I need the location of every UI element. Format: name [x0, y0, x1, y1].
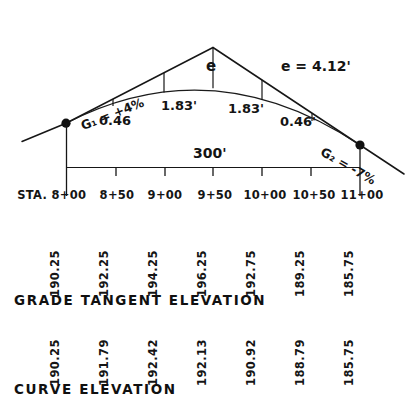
offset-label-3: 1.83' [228, 101, 264, 116]
curve-length-label: 300' [193, 145, 227, 161]
station-label-row: STA. 8+00 8+50 9+00 9+50 10+00 10+50 11+… [0, 188, 410, 210]
grade-tangent-elev-8+00: 190.25 [48, 250, 62, 297]
curve-elev-11+00: 185.75 [342, 339, 356, 386]
station-label-8+00: STA. 8+00 [17, 188, 86, 202]
curve-elev-9+50: 192.13 [195, 339, 209, 386]
grade-tangent-elevation-title: GRADE TANGENT ELEVATION [14, 292, 266, 308]
curve-elevation-title: CURVE ELEVATION [14, 381, 177, 397]
curve-elev-10+00: 190.92 [244, 339, 258, 386]
grade-tangent-elev-9+00: 194.25 [146, 250, 160, 297]
curve-elev-9+00: 192.42 [146, 339, 160, 386]
offset-label-4: 0.46' [280, 114, 316, 129]
station-label-9+50: 9+50 [198, 188, 233, 202]
external-value-label: e = 4.12' [281, 58, 351, 74]
external-symbol-label: e [206, 57, 216, 75]
curve-elev-8+50: 191.79 [97, 339, 111, 386]
station-label-10+50: 10+50 [292, 188, 335, 202]
station-label-11+00: 11+00 [340, 188, 383, 202]
grade-tangent-elev-10+00: 192.75 [244, 250, 258, 297]
grade-tangent-elev-10+50: 189.25 [293, 250, 307, 297]
grade-tangent-elev-9+50: 196.25 [195, 250, 209, 297]
station-label-8+50: 8+50 [100, 188, 135, 202]
grade-tangent-elev-8+50: 192.25 [97, 250, 111, 297]
curve-elev-10+50: 188.79 [293, 339, 307, 386]
vertical-curve-diagram: G₁ = +4% G₂ = -7% e e = 4.12' 0.46 1.83'… [0, 0, 410, 408]
curve-elev-8+00: 190.25 [48, 339, 62, 386]
station-label-9+00: 9+00 [148, 188, 183, 202]
station-label-10+00: 10+00 [243, 188, 286, 202]
offset-label-1: 0.46 [99, 113, 131, 128]
offset-label-2: 1.83' [161, 98, 197, 113]
grade-tangent-elev-11+00: 185.75 [342, 250, 356, 297]
